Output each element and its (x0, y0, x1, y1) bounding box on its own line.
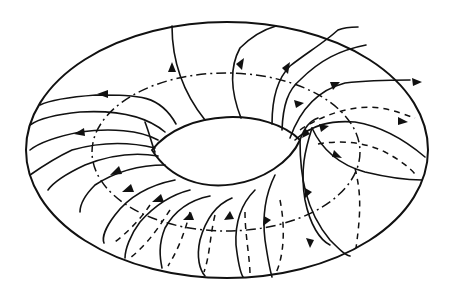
lower-flow-lines (103, 140, 350, 277)
arrow-icon (398, 117, 408, 125)
arrow-icon (306, 238, 314, 248)
arrowheads (74, 58, 422, 248)
arrow-icon (330, 82, 340, 90)
arrow-icon (319, 124, 329, 132)
arrow-icon (412, 78, 422, 86)
arrow-icon (122, 184, 134, 192)
arrow-icon (224, 211, 234, 220)
torus-flow-diagram (0, 0, 449, 296)
arrow-icon (263, 216, 271, 226)
arrow-icon (305, 188, 312, 198)
right-flow-lines (295, 118, 425, 245)
arrow-icon (168, 62, 176, 72)
arrow-icon (282, 62, 290, 74)
upper-flow-lines (30, 26, 410, 150)
arrow-icon (152, 194, 164, 202)
torus-svg (0, 0, 449, 296)
left-flow-lines (30, 122, 165, 212)
arrow-icon (74, 128, 85, 136)
arrow-icon (97, 90, 108, 98)
arrow-icon (183, 212, 194, 220)
arrow-icon (294, 100, 304, 108)
torus-outer-boundary (26, 22, 428, 278)
arrow-icon (110, 166, 122, 175)
torus-hole (152, 117, 300, 185)
hidden-flow-lines (112, 107, 415, 275)
arrow-icon (332, 150, 342, 158)
arrow-icon (236, 58, 244, 70)
